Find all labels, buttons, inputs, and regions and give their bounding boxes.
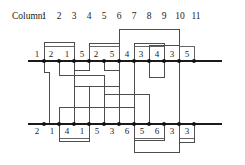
column-number-4: 4: [87, 12, 92, 22]
top-value-2: 2: [49, 50, 54, 59]
top-value-7: 4: [125, 50, 130, 59]
connector-c5-to-c3: [104, 61, 119, 70]
bottom-value-4: 1: [80, 127, 85, 136]
column-number-1: 1: [42, 12, 47, 22]
top-value-5: 2: [94, 50, 99, 59]
bottom-value-11: 3: [185, 127, 190, 136]
connector-c1-to-c2: [44, 61, 49, 124]
bottom-node-8: [147, 122, 151, 126]
bottom-value-5: 5: [95, 127, 100, 136]
bottom-value-8: 5: [140, 127, 145, 136]
bottom-value-6: 3: [110, 127, 115, 136]
top-value-1: 1: [35, 50, 40, 59]
bottom-value-10: 3: [170, 127, 175, 136]
column-number-3: 3: [72, 12, 77, 22]
column-number-6: 6: [117, 12, 122, 22]
top-node-1: [42, 59, 46, 63]
top-node-10: [177, 59, 181, 63]
connector-c4-left-drop: [74, 61, 89, 124]
bottom-node-6: [117, 122, 121, 126]
top-value-4: 5: [80, 50, 85, 59]
bottom-node-4: [87, 122, 91, 126]
bottom-value-2: 1: [50, 127, 55, 136]
top-node-7: [132, 59, 136, 63]
top-value-6: 5: [110, 50, 115, 59]
bottom-value-7: 6: [125, 127, 130, 136]
top-node-8: [147, 59, 151, 63]
top-value-9: 4: [155, 50, 160, 59]
bottom-node-3: [72, 122, 76, 126]
routing-diagram: Column: 1 2 3 4 5 6 7 8 9 10 11 1 2 1 5 …: [0, 0, 245, 165]
bottom-box-2-4: [59, 124, 89, 138]
column-number-7: 7: [132, 12, 137, 22]
column-number-11: 11: [191, 12, 200, 22]
bottom-node-5: [102, 122, 106, 126]
connector-c8-to-c9: [149, 61, 164, 77]
top-node-4: [87, 59, 91, 63]
bottom-value-1: 2: [35, 127, 40, 136]
bottom-value-3: 4: [65, 127, 70, 136]
top-node-11: [192, 59, 196, 63]
column-number-10: 10: [175, 12, 185, 22]
column-number-2: 2: [57, 12, 62, 22]
column-number-5: 5: [102, 12, 107, 22]
bottom-node-7: [132, 122, 136, 126]
rail-layer: [28, 61, 222, 124]
column-header-label: Column:: [12, 12, 45, 22]
top-node-3: [72, 59, 76, 63]
bottom-value-9: 6: [155, 127, 160, 136]
bottom-node-10: [177, 122, 181, 126]
column-number-9: 9: [162, 12, 167, 22]
bottom-node-2: [57, 122, 61, 126]
top-node-6: [117, 59, 121, 63]
top-node-9: [162, 59, 166, 63]
diagram-canvas: [0, 0, 245, 165]
bottom-node-9: [162, 122, 166, 126]
bottom-node-11: [192, 122, 196, 126]
bottom-node-1: [42, 122, 46, 126]
top-value-8: 3: [139, 50, 144, 59]
top-value-3: 1: [65, 50, 70, 59]
top-value-11: 5: [185, 50, 190, 59]
top-node-2: [57, 59, 61, 63]
top-node-5: [102, 59, 106, 63]
top-value-10: 3: [170, 50, 175, 59]
column-number-8: 8: [147, 12, 152, 22]
